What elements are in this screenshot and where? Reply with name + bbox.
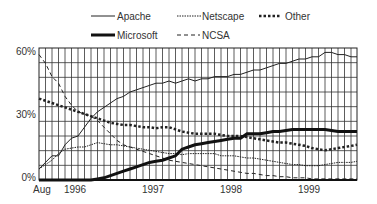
x-tick-1996: 1996 — [64, 184, 87, 195]
legend-item-apache: Apache — [91, 11, 151, 22]
x-tick-1998: 1998 — [220, 184, 243, 195]
x-tick-1997: 1997 — [142, 184, 165, 195]
legend-item-other: Other — [259, 11, 311, 22]
y-tick-60: 60% — [16, 46, 36, 57]
y-tick-0: 0% — [22, 172, 37, 183]
y-tick-30: 30% — [16, 109, 36, 120]
legend-label-microsoft: Microsoft — [117, 30, 158, 41]
legend-label-ncsa: NCSA — [202, 30, 230, 41]
legend-label-other: Other — [285, 11, 311, 22]
x-tick-aug: Aug — [33, 184, 51, 195]
legend-label-netscape: Netscape — [202, 11, 245, 22]
chart: Apache Netscape Other Microsoft NCSA 6 — [0, 0, 377, 204]
legend-label-apache: Apache — [117, 11, 151, 22]
series-lines — [39, 52, 357, 180]
line-apache — [39, 52, 357, 169]
legend-item-microsoft: Microsoft — [91, 30, 158, 41]
line-ncsa — [39, 55, 357, 179]
x-tick-1999: 1999 — [298, 184, 321, 195]
legend: Apache Netscape Other Microsoft NCSA — [91, 11, 311, 41]
line-microsoft — [39, 129, 357, 180]
legend-item-ncsa: NCSA — [177, 30, 230, 41]
legend-item-netscape: Netscape — [177, 11, 245, 22]
